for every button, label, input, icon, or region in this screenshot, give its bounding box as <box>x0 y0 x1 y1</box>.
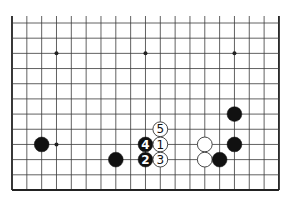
move-number: 5 <box>156 122 164 136</box>
white-stone-5: 5 <box>153 122 168 137</box>
white-stone <box>197 137 212 152</box>
star-point-icon <box>143 51 147 55</box>
move-number: 2 <box>141 153 149 167</box>
white-stone-3: 3 <box>153 152 168 167</box>
stones-layer: 42513 <box>34 107 242 167</box>
black-stone <box>227 137 242 152</box>
black-stone <box>212 152 227 167</box>
black-stone-icon <box>227 107 242 122</box>
move-number: 3 <box>156 153 164 167</box>
black-stone-icon <box>34 137 49 152</box>
star-point-icon <box>54 142 58 146</box>
star-point-icon <box>54 51 58 55</box>
black-stone <box>227 107 242 122</box>
go-board: 42513 <box>0 0 288 203</box>
black-stone-4: 4 <box>138 137 153 152</box>
black-stone-icon <box>108 152 123 167</box>
black-stone-icon <box>227 137 242 152</box>
black-stone-icon <box>212 152 227 167</box>
black-stone <box>34 137 49 152</box>
white-stone <box>197 152 212 167</box>
move-number: 1 <box>156 138 164 152</box>
move-number: 4 <box>141 138 149 152</box>
white-stone-icon <box>197 137 212 152</box>
white-stone-1: 1 <box>153 137 168 152</box>
black-stone <box>108 152 123 167</box>
star-point-icon <box>232 51 236 55</box>
white-stone-icon <box>197 152 212 167</box>
black-stone-2: 2 <box>138 152 153 167</box>
